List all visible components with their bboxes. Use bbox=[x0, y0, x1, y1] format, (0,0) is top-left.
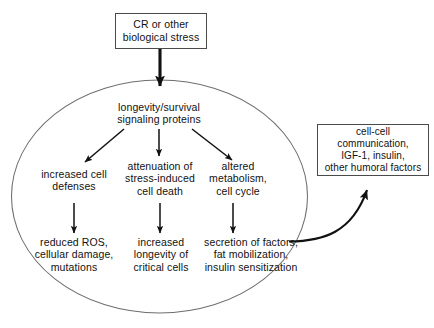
node-altered-metabolism-cell-cycle: altered metabolism, cell cycle bbox=[202, 160, 274, 197]
edge-signaling-to-altered bbox=[192, 129, 232, 160]
node-increased-longevity-critical-cells: increased longevity of critical cells bbox=[124, 236, 198, 273]
node-humoral-factors-box: cell-cell communication, IGF-1, insulin,… bbox=[317, 124, 429, 176]
node-humoral-factors-label: cell-cell communication, IGF-1, insulin,… bbox=[325, 126, 422, 174]
node-secretion-of-factors: secretion of factors, fat mobilization, … bbox=[190, 236, 312, 273]
node-signaling-proteins: longevity/survival signaling proteins bbox=[94, 101, 224, 126]
diagram-canvas: CR or other biological stress longevity/… bbox=[0, 0, 434, 328]
node-stimulus-label: CR or other biological stress bbox=[123, 18, 200, 43]
node-reduced-ros-cellular-damage-mutations: reduced ROS, cellular damage, mutations bbox=[18, 236, 130, 273]
edge-secretion-to-humoral bbox=[289, 190, 367, 242]
node-stimulus-box: CR or other biological stress bbox=[115, 13, 207, 49]
node-attenuation-stress-induced-cell-death: attenuation of stress-induced cell death bbox=[112, 160, 208, 197]
edge-signaling-to-defenses bbox=[85, 129, 124, 162]
node-increased-cell-defenses: increased cell defenses bbox=[22, 168, 126, 193]
